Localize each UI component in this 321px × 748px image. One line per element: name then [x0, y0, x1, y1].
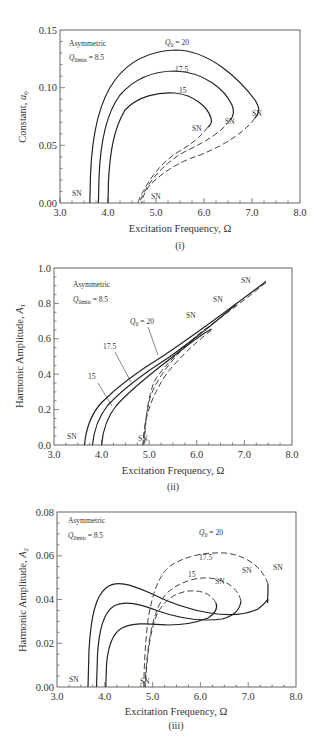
annotation-sn: SN: [69, 675, 79, 684]
annotation-sn: SN: [192, 124, 202, 133]
x-tick-label: 3.0: [47, 449, 60, 460]
x-tick-label: 8.0: [285, 449, 298, 460]
annotation-sn: SN: [186, 311, 196, 320]
y-tick-label: 0.08: [36, 507, 54, 518]
y-tick-label: 0.2: [38, 404, 51, 415]
x-tick-label: 4.0: [98, 691, 111, 702]
x-tick-label: 7.0: [242, 691, 255, 702]
annotation-sn: SN: [151, 192, 161, 201]
series-q0-15: [106, 591, 217, 687]
x-tick-label: 3.0: [50, 691, 63, 702]
annotation-q0-20: Q0 = 20: [165, 38, 189, 48]
x-tick-label: 6.0: [194, 691, 207, 702]
series-q0-17-5: [93, 304, 237, 445]
annotation-q0min: Q0min = 8.5: [69, 53, 104, 63]
x-tick-label: 7.0: [238, 449, 251, 460]
figure: 0.00 0.05 0.10 0.15 3.0 4.0 5.0 6.0 7.0 …: [0, 0, 321, 748]
series-q0-15: [108, 93, 211, 203]
y-ticks: [54, 277, 59, 436]
annotation-15: 15: [188, 570, 196, 579]
y-tick-label: 1.0: [38, 263, 51, 274]
x-tick-label: 5.0: [143, 449, 156, 460]
series-q0-17-5: [97, 578, 242, 687]
y-tick-label: 0.6: [38, 333, 51, 344]
x-axis-label: Excitation Frequency, Ω: [122, 465, 225, 476]
y-ticks: [60, 42, 65, 192]
annotation-sn: SN: [213, 295, 223, 304]
annotation-asymmetric: Asymmetric: [69, 39, 107, 48]
annotation-q0min: Q0min = 8.5: [73, 295, 108, 305]
series-q0-17-5: [98, 71, 233, 203]
panel-caption: (iii): [169, 720, 184, 732]
x-tick-label: 4.0: [101, 207, 114, 218]
annotation-sn: SN: [72, 189, 82, 198]
x-ticks: [69, 682, 284, 687]
annotation-asymmetric: Asymmetric: [68, 516, 106, 525]
y-axis-label: Constant, a0: [17, 91, 30, 143]
y-axis-label: Harmonic Amplitude, A1: [14, 303, 27, 408]
annotation-sn: SN: [242, 566, 252, 575]
x-tick-label: 6.0: [197, 207, 210, 218]
y-ticks: [57, 523, 62, 676]
x-tick-label: 5.0: [146, 691, 159, 702]
leader-line: [115, 352, 131, 382]
annotation-q0-20: Q0 = 20: [199, 528, 223, 538]
x-tick-label: 4.0: [95, 449, 108, 460]
annotation-asymmetric: Asymmetric: [73, 280, 111, 289]
y-tick-label: 0.06: [36, 550, 54, 561]
y-tick-label: 0.4: [38, 369, 52, 380]
annotation-sn: SN: [67, 432, 77, 441]
leader-line: [148, 327, 158, 355]
annotation-sn: SN: [241, 276, 251, 285]
y-tick-label: 0.10: [39, 82, 57, 93]
y-tick-label: 0.15: [39, 25, 57, 36]
annotation-17-5: 17.5: [199, 553, 212, 562]
annotation-q0min: Q0min = 8.5: [68, 531, 103, 541]
x-ticks: [66, 440, 280, 445]
x-tick-label: 8.0: [289, 691, 302, 702]
annotation-q0-20: Q0 = 20: [130, 317, 154, 327]
x-tick-label: 3.0: [53, 207, 66, 218]
annotation-17-5: 17.5: [103, 342, 116, 351]
x-tick-label: 7.0: [245, 207, 258, 218]
y-tick-label: 0.8: [38, 298, 51, 309]
panel-i: 0.00 0.05 0.10 0.15 3.0 4.0 5.0 6.0 7.0 …: [17, 25, 307, 253]
x-tick-label: 8.0: [293, 207, 306, 218]
y-tick-label: 0.04: [36, 594, 55, 605]
panel-ii: 0.0 0.2 0.4 0.6 0.8 1.0 3.0 4.0 5.0 6.0 …: [14, 263, 299, 494]
series-q0-20: [88, 553, 268, 687]
annotation-15: 15: [88, 372, 96, 381]
x-tick-label: 5.0: [149, 207, 162, 218]
panel-caption: (ii): [167, 481, 179, 493]
x-axis-label: Excitation Frequency, Ω: [125, 706, 228, 717]
y-tick-label: 0.02: [36, 638, 54, 649]
panel-caption: (i): [175, 240, 184, 252]
annotation-sn: SN: [273, 563, 283, 572]
x-ticks: [60, 198, 288, 203]
annotation-sn: SN: [252, 109, 262, 118]
x-axis-label: Excitation Frequency, Ω: [129, 223, 232, 234]
panel-iii: 0.00 0.02 0.04 0.06 0.08 3.0 4.0 5.0 6.0…: [17, 507, 303, 733]
y-tick-label: 0.05: [39, 140, 57, 151]
y-axis-label: Harmonic Amplitude, A2: [17, 547, 30, 652]
x-tick-label: 6.0: [190, 449, 203, 460]
